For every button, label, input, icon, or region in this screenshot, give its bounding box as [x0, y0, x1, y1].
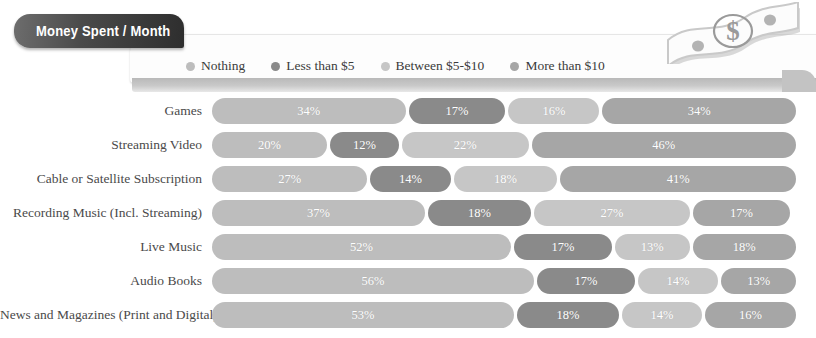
bar-segment[interactable]: 41%: [560, 166, 796, 192]
legend-swatch-icon: [271, 62, 280, 71]
chart-row: Cable or Satellite Subscription27%14%18%…: [0, 164, 816, 194]
bar-segment[interactable]: 27%: [534, 200, 689, 226]
bar-segment-value: 16%: [739, 308, 762, 323]
bar-segment-value: 14%: [399, 172, 422, 187]
bar-segment-value: 12%: [353, 138, 376, 153]
row-label: Audio Books: [0, 273, 212, 289]
legend-item-label: More than $10: [525, 58, 604, 74]
bar-track: 20%12%22%46%: [212, 132, 796, 158]
row-label: News and Magazines (Print and Digital): [0, 307, 212, 323]
legend-item-1[interactable]: Less than $5: [271, 58, 354, 74]
bar-segment[interactable]: 17%: [514, 234, 612, 260]
bar-segment-value: 17%: [730, 206, 753, 221]
bar-segment[interactable]: 27%: [212, 166, 367, 192]
row-label: Recording Music (Incl. Streaming): [0, 205, 212, 221]
row-label: Cable or Satellite Subscription: [0, 171, 212, 187]
bar-segment[interactable]: 52%: [212, 234, 511, 260]
bar-segment[interactable]: 18%: [454, 166, 558, 192]
bar-segment-value: 16%: [542, 104, 565, 119]
bar-segment-value: 14%: [667, 274, 690, 289]
bar-segment-value: 18%: [733, 240, 756, 255]
legend-swatch-icon: [381, 62, 390, 71]
bar-segment[interactable]: 16%: [705, 302, 796, 328]
bar-segment-value: 41%: [667, 172, 690, 187]
row-label: Games: [0, 103, 212, 119]
bar-segment-value: 18%: [468, 206, 491, 221]
bar-track: 53%18%14%16%: [212, 302, 796, 328]
bar-segment-value: 18%: [557, 308, 580, 323]
legend-item-0[interactable]: Nothing: [186, 58, 245, 74]
bar-segment-value: 53%: [351, 308, 374, 323]
bar-segment[interactable]: 14%: [370, 166, 451, 192]
title-banner: Money Spent / Month: [14, 14, 184, 48]
bar-track: 52%17%13%18%: [212, 234, 796, 260]
legend-swatch-icon: [186, 62, 195, 71]
bar-segment[interactable]: 16%: [508, 98, 599, 124]
bar-segment-value: 18%: [494, 172, 517, 187]
chart-row: News and Magazines (Print and Digital)53…: [0, 300, 816, 330]
bar-segment[interactable]: 14%: [638, 268, 719, 294]
legend-item-label: Nothing: [201, 58, 245, 74]
bar-segment-value: 37%: [307, 206, 330, 221]
bar-track: 56%17%14%13%: [212, 268, 796, 294]
bar-segment-value: 52%: [350, 240, 373, 255]
bar-segment[interactable]: 22%: [402, 132, 529, 158]
bar-segment-value: 20%: [258, 138, 281, 153]
bar-segment-value: 17%: [551, 240, 574, 255]
bar-segment-value: 27%: [278, 172, 301, 187]
legend: NothingLess than $5Between $5-$10More th…: [186, 58, 605, 74]
bar-segment[interactable]: 13%: [721, 268, 796, 294]
bar-segment[interactable]: 18%: [517, 302, 619, 328]
bar-segment[interactable]: 56%: [212, 268, 534, 294]
bar-segment[interactable]: 17%: [409, 98, 506, 124]
chart-row: Recording Music (Incl. Streaming)37%18%2…: [0, 198, 816, 228]
bar-track: 37%18%27%17%: [212, 200, 796, 226]
row-label: Live Music: [0, 239, 212, 255]
bar-segment-value: 46%: [652, 138, 675, 153]
bar-segment-value: 56%: [362, 274, 385, 289]
bar-segment[interactable]: 37%: [212, 200, 425, 226]
bar-segment-value: 27%: [600, 206, 623, 221]
legend-panel-shadow: [132, 78, 816, 92]
bar-segment-value: 22%: [454, 138, 477, 153]
bar-segment[interactable]: 18%: [693, 234, 797, 260]
bar-segment[interactable]: 14%: [622, 302, 702, 328]
bar-segment[interactable]: 34%: [212, 98, 406, 124]
bar-track: 27%14%18%41%: [212, 166, 796, 192]
chart-row: Streaming Video20%12%22%46%: [0, 130, 816, 160]
chart-row: Audio Books56%17%14%13%: [0, 266, 816, 296]
chart-row: Games34%17%16%34%: [0, 96, 816, 126]
page-title: Money Spent / Month: [36, 23, 170, 39]
bar-segment[interactable]: 12%: [330, 132, 399, 158]
bar-segment-value: 34%: [688, 104, 711, 119]
bar-segment-value: 13%: [641, 240, 664, 255]
row-label: Streaming Video: [0, 137, 212, 153]
bar-segment-value: 34%: [297, 104, 320, 119]
bar-segment[interactable]: 17%: [537, 268, 635, 294]
bar-segment[interactable]: 53%: [212, 302, 514, 328]
dollar-bill-icon: $: [660, 2, 810, 64]
bar-segment[interactable]: 46%: [532, 132, 797, 158]
legend-item-3[interactable]: More than $10: [510, 58, 604, 74]
bar-segment[interactable]: 20%: [212, 132, 327, 158]
chart-header: NothingLess than $5Between $5-$10More th…: [0, 0, 816, 92]
stacked-bar-chart: Games34%17%16%34%Streaming Video20%12%22…: [0, 96, 816, 338]
legend-item-label: Less than $5: [286, 58, 354, 74]
legend-item-label: Between $5-$10: [396, 58, 485, 74]
bar-segment-value: 17%: [445, 104, 468, 119]
bar-segment[interactable]: 17%: [693, 200, 791, 226]
dollar-symbol: $: [726, 16, 740, 46]
bar-segment[interactable]: 13%: [615, 234, 690, 260]
bar-segment[interactable]: 34%: [602, 98, 796, 124]
chart-row: Live Music52%17%13%18%: [0, 232, 816, 262]
legend-swatch-icon: [510, 62, 519, 71]
bar-segment[interactable]: 18%: [428, 200, 532, 226]
bar-segment-value: 13%: [747, 274, 770, 289]
bar-track: 34%17%16%34%: [212, 98, 796, 124]
bar-segment-value: 14%: [651, 308, 674, 323]
legend-item-2[interactable]: Between $5-$10: [381, 58, 485, 74]
bar-segment-value: 17%: [574, 274, 597, 289]
